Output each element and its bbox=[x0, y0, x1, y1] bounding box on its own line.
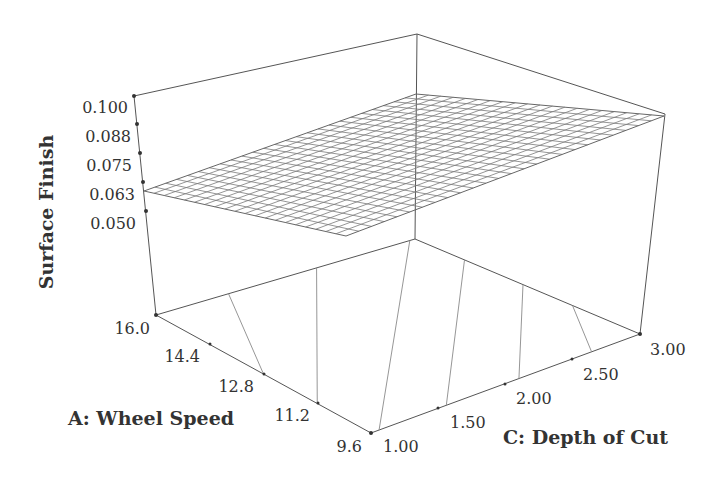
y-tick-label: 1.50 bbox=[450, 413, 486, 432]
mesh-line bbox=[285, 109, 589, 222]
y-tick-label: 2.50 bbox=[583, 365, 619, 384]
z-tick-label: 0.075 bbox=[86, 156, 132, 175]
z-axis-ticks: 0.100 0.088 0.075 0.063 0.050 bbox=[82, 94, 148, 233]
z-axis-title: Surface Finish bbox=[35, 135, 57, 290]
mesh-line bbox=[296, 111, 603, 225]
z-tick-dot bbox=[135, 122, 139, 126]
z-tick-dot bbox=[138, 151, 142, 155]
z-tick-label: 0.100 bbox=[82, 98, 128, 117]
floor-contour-line bbox=[229, 294, 264, 374]
floor-contour-line bbox=[379, 241, 410, 431]
surface-plot-3d: 0.100 0.088 0.075 0.063 0.050 16.0 14.4 … bbox=[0, 0, 719, 484]
y-axis-title: C: Depth of Cut bbox=[503, 426, 668, 448]
x-tick-dot bbox=[317, 402, 320, 405]
z-tick-dot bbox=[132, 94, 136, 98]
y-tick-dot bbox=[638, 332, 642, 336]
x-tick-dot bbox=[263, 373, 266, 376]
y-tick-label: 3.00 bbox=[650, 340, 686, 359]
z-tick-label: 0.063 bbox=[89, 185, 135, 204]
mesh-line bbox=[275, 108, 577, 220]
mesh-line bbox=[195, 100, 479, 203]
y-tick-label: 2.00 bbox=[516, 389, 552, 408]
back-vertical-line bbox=[415, 34, 417, 239]
z-tick-label: 0.050 bbox=[90, 214, 136, 233]
z-tick-dot bbox=[141, 180, 145, 184]
y-tick-label: 1.00 bbox=[383, 437, 419, 456]
box-top-right-edge bbox=[417, 34, 665, 114]
y-tick-dot bbox=[571, 358, 574, 361]
floor-contour-line bbox=[519, 285, 523, 379]
x-tick-label: 9.6 bbox=[337, 437, 362, 456]
x-tick-dot bbox=[154, 313, 158, 317]
z-axis-line bbox=[134, 96, 156, 315]
right-vertical-line bbox=[640, 114, 665, 334]
z-tick-dot bbox=[144, 209, 148, 213]
x-tick-label: 16.0 bbox=[114, 319, 150, 338]
floor-contour-line bbox=[317, 268, 318, 404]
mesh-line bbox=[245, 105, 540, 214]
mesh-line bbox=[205, 101, 491, 205]
x-tick-label: 11.2 bbox=[274, 406, 310, 425]
mesh-line bbox=[184, 98, 465, 200]
surface-mesh bbox=[144, 94, 664, 236]
mesh-line bbox=[235, 104, 528, 211]
mesh-line bbox=[225, 103, 515, 209]
mesh-line bbox=[255, 106, 552, 216]
x-tick-label: 12.8 bbox=[218, 377, 254, 396]
mesh-line bbox=[215, 102, 503, 207]
x-tick-dot bbox=[209, 343, 212, 346]
y-tick-dot bbox=[504, 383, 507, 386]
x-tick-label: 14.4 bbox=[164, 347, 200, 366]
y-tick-dot bbox=[437, 407, 440, 410]
floor-contour-line bbox=[446, 260, 464, 405]
x-tick-dot bbox=[369, 431, 373, 435]
x-axis-title: A: Wheel Speed bbox=[67, 407, 234, 429]
x-axis-ticks: 16.0 14.4 12.8 11.2 9.6 bbox=[114, 313, 373, 456]
floor-back-edges bbox=[156, 239, 640, 334]
box-top-left-edge bbox=[134, 34, 417, 96]
z-tick-label: 0.088 bbox=[85, 127, 131, 146]
